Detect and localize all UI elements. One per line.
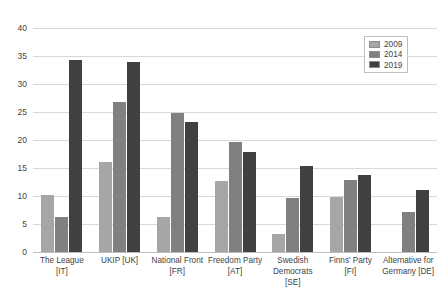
- bar-group: [264, 28, 322, 252]
- x-axis-category-label: National Front [FR]: [148, 256, 206, 288]
- bar: [286, 198, 299, 252]
- x-axis-category-label: The League [IT]: [33, 256, 91, 288]
- bar: [243, 152, 256, 252]
- bar: [69, 60, 82, 252]
- bar-group: [33, 28, 91, 252]
- y-axis-tick-label: 25: [5, 108, 27, 117]
- bar: [127, 62, 140, 252]
- y-axis-tick-label: 10: [5, 192, 27, 201]
- x-axis-category-label: Swedish Democrats [SE]: [264, 256, 322, 288]
- bar: [55, 217, 68, 252]
- bar: [358, 175, 371, 252]
- legend-row: 2019: [369, 61, 402, 69]
- x-axis-category-label: Finns' Party [FI]: [322, 256, 380, 288]
- bar: [215, 181, 228, 252]
- y-axis-tick-label: 35: [5, 52, 27, 61]
- legend-row: 2014: [369, 50, 402, 58]
- y-axis-tick-label: 40: [5, 24, 27, 33]
- legend-swatch: [369, 41, 380, 48]
- y-axis-tick-label: 30: [5, 80, 27, 89]
- bar-group: [148, 28, 206, 252]
- y-axis-tick-label: 15: [5, 164, 27, 173]
- y-axis-tick-label: 5: [5, 220, 27, 229]
- bar: [113, 102, 126, 252]
- bar: [99, 162, 112, 252]
- y-axis-tick-label: 20: [5, 136, 27, 145]
- legend-label: 2009: [384, 40, 402, 48]
- bar: [300, 166, 313, 252]
- bar-group: [91, 28, 149, 252]
- bar: [330, 197, 343, 252]
- legend-swatch: [369, 61, 380, 68]
- legend-swatch: [369, 51, 380, 58]
- x-axis-category-label: UKIP [UK]: [91, 256, 149, 288]
- bar: [171, 113, 184, 252]
- x-axis-category-labels: The League [IT]UKIP [UK]National Front […: [33, 256, 437, 288]
- x-axis-category-label: Alternative for Germany [DE]: [379, 256, 437, 288]
- bar: [41, 195, 54, 252]
- legend-label: 2019: [384, 61, 402, 69]
- legend-row: 2009: [369, 40, 402, 48]
- bar-group: [206, 28, 264, 252]
- bar-chart: 0510152025303540 The League [IT]UKIP [UK…: [0, 0, 446, 289]
- bar: [229, 142, 242, 252]
- x-axis-category-label: Freedom Party [AT]: [206, 256, 264, 288]
- bar: [185, 122, 198, 252]
- gridline: [33, 252, 437, 253]
- y-axis-tick-label: 0: [5, 248, 27, 257]
- bar: [402, 212, 415, 252]
- chart-legend: 200920142019: [364, 36, 408, 73]
- bar: [157, 217, 170, 252]
- bar: [416, 190, 429, 252]
- legend-label: 2014: [384, 50, 402, 58]
- bar: [272, 234, 285, 252]
- bar: [344, 180, 357, 252]
